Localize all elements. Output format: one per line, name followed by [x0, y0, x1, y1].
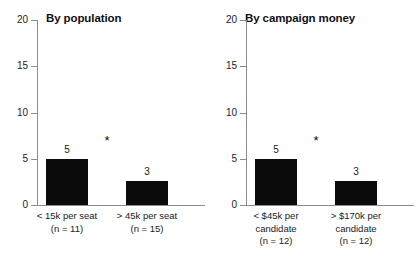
- bar-category-1: 5: [46, 159, 88, 205]
- significance-asterisk: *: [104, 136, 109, 146]
- y-axis-line: [246, 20, 247, 206]
- y-tick-5: 5: [31, 159, 37, 160]
- y-tick-label-10: 10: [226, 106, 237, 119]
- x-category-label-2: > $170k per candidate (n = 12): [309, 210, 403, 248]
- panel-by-population: By population 20 15 10 5 0 5 3 * < 15k p…: [0, 0, 209, 263]
- panel-title: By campaign money: [245, 12, 355, 24]
- x-category-label-2: > 45k per seat (n = 15): [100, 210, 194, 235]
- y-tick-label-15: 15: [17, 59, 28, 72]
- y-tick-5: 5: [240, 159, 246, 160]
- y-tick-20: 20: [31, 20, 37, 21]
- figure-root: By population 20 15 10 5 0 5 3 * < 15k p…: [0, 0, 418, 263]
- bar-value-label-1: 5: [273, 144, 279, 156]
- y-tick-0: 0: [31, 205, 37, 206]
- bar-category-1: 5: [255, 159, 297, 205]
- panel-by-campaign-money: By campaign money 20 15 10 5 0 5 3 * < $…: [209, 0, 418, 263]
- y-tick-label-15: 15: [226, 59, 237, 72]
- y-tick-label-20: 20: [226, 13, 237, 26]
- y-tick-10: 10: [240, 113, 246, 114]
- y-axis-line: [37, 20, 38, 206]
- y-tick-20: 20: [240, 20, 246, 21]
- y-tick-10: 10: [31, 113, 37, 114]
- y-tick-label-10: 10: [17, 106, 28, 119]
- x-axis-line: [37, 205, 205, 206]
- y-tick-0: 0: [240, 205, 246, 206]
- bar-value-label-2: 3: [353, 166, 359, 178]
- y-tick-label-5: 5: [231, 152, 237, 165]
- y-tick-label-20: 20: [17, 13, 28, 26]
- bar-value-label-1: 5: [64, 144, 70, 156]
- y-tick-label-5: 5: [22, 152, 28, 165]
- panel-title: By population: [46, 12, 121, 24]
- x-axis-line: [246, 205, 414, 206]
- bar-category-2: 3: [335, 181, 377, 205]
- bar-category-2: 3: [126, 181, 168, 205]
- bar-value-label-2: 3: [144, 166, 150, 178]
- significance-asterisk: *: [313, 136, 318, 146]
- y-tick-15: 15: [31, 66, 37, 67]
- y-tick-15: 15: [240, 66, 246, 67]
